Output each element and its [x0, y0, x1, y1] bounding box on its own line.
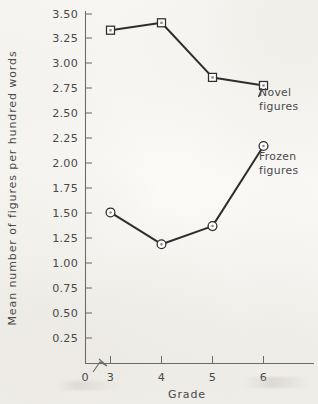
series-label-frozen-line2: figures: [259, 164, 298, 177]
x-tick-label: 6: [260, 371, 267, 384]
data-point-core: [109, 29, 111, 31]
series-frozen-figures: Frozen figures: [106, 142, 298, 249]
data-point-core: [160, 22, 162, 24]
series-frozen-figures-line: [111, 146, 264, 244]
y-tick-label: 1.25: [52, 232, 78, 245]
series-label-novel-line2: figures: [259, 100, 298, 113]
y-axis-title: Mean number of figures per hundred words: [6, 50, 19, 325]
x-axis-title: Grade: [168, 388, 206, 401]
data-point-core: [262, 145, 265, 148]
y-tick-label: 3.50: [52, 8, 78, 21]
series-label-novel-line1: Novel: [259, 86, 291, 99]
y-tick-label: 1.00: [52, 257, 78, 270]
data-point-core: [160, 243, 163, 246]
y-axis-tick-labels: 3.50 3.25 3.00 2.75 2.50 2.25 2.00 1.75 …: [52, 8, 78, 345]
y-tick-label: 2.75: [52, 82, 78, 95]
data-point-core: [211, 225, 214, 228]
chart-figure: 3.50 3.25 3.00 2.75 2.50 2.25 2.00 1.75 …: [0, 0, 318, 404]
y-tick-label: 0.50: [52, 307, 78, 320]
series-novel-figures-line: [111, 23, 264, 86]
series-frozen-figures-markers: [106, 142, 268, 249]
series-novel-figures: Novel figures: [107, 19, 299, 113]
y-tick-label: 1.75: [52, 182, 78, 195]
y-tick-label: 2.00: [52, 157, 78, 170]
series-label-frozen-line1: Frozen: [259, 150, 297, 163]
x-tick-label: 4: [158, 371, 165, 384]
x-tick-label: 3: [107, 371, 114, 384]
data-point-core: [211, 76, 213, 78]
y-axis-ticks: [86, 14, 93, 338]
y-tick-label: 0.75: [52, 282, 78, 295]
line-chart: 3.50 3.25 3.00 2.75 2.50 2.25 2.00 1.75 …: [0, 0, 318, 404]
data-point-core: [109, 211, 112, 214]
x-tick-label: 5: [209, 371, 216, 384]
y-tick-label: 3.25: [52, 32, 78, 45]
y-tick-label: 3.00: [52, 57, 78, 70]
series-novel-figures-markers: [107, 19, 268, 90]
y-tick-label: 2.25: [52, 132, 78, 145]
y-tick-label: 2.50: [52, 107, 78, 120]
x-axis-tick-labels: 3 4 5 6: [107, 371, 267, 384]
y-tick-label: 1.50: [52, 207, 78, 220]
axis-break-icon: [93, 359, 107, 372]
x-axis-ticks: [111, 356, 264, 364]
origin-label: 0: [81, 371, 88, 384]
y-tick-label: 0.25: [52, 332, 78, 345]
